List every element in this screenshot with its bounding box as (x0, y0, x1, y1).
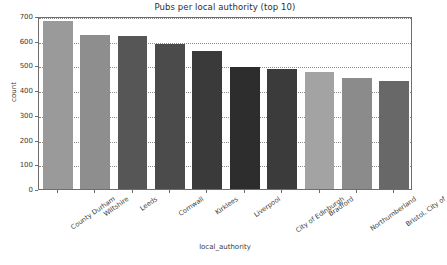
x-tick-label: Leeds (138, 195, 158, 213)
x-tick-label: Kirklees (214, 195, 240, 217)
x-axis: County DurhamWiltshireLeedsCornwallKirkl… (38, 190, 412, 242)
plot-area (38, 17, 412, 190)
x-tick-mark (356, 190, 357, 193)
bar[interactable] (155, 44, 185, 189)
x-tick-mark (206, 190, 207, 193)
bar[interactable] (43, 21, 73, 189)
bar[interactable] (118, 36, 148, 189)
x-tick-mark (132, 190, 133, 193)
x-tick-mark (319, 190, 320, 193)
x-tick-label: City of Edinburgh (294, 195, 345, 234)
x-axis-label: local_authority (38, 243, 412, 251)
bar[interactable] (80, 35, 110, 189)
chart-title: Pubs per local authority (top 10) (38, 2, 412, 12)
y-axis-label: count (10, 62, 18, 122)
x-tick-mark (281, 190, 282, 193)
y-tick-label: 500 (20, 62, 33, 70)
y-tick-label: 400 (20, 87, 33, 95)
bar[interactable] (342, 78, 372, 189)
y-tick-label: 300 (20, 112, 33, 120)
x-tick-mark (244, 190, 245, 193)
y-tick-label: 600 (20, 38, 33, 46)
x-tick-label: Liverpool (252, 195, 281, 219)
x-tick-mark (393, 190, 394, 193)
y-tick-label: 700 (20, 13, 33, 21)
y-axis: 0100200300400500600700 (0, 17, 38, 190)
y-tick-label: 100 (20, 161, 33, 169)
bar[interactable] (379, 81, 409, 189)
bar[interactable] (230, 67, 260, 189)
x-tick-mark (169, 190, 170, 193)
bar[interactable] (267, 69, 297, 189)
bar[interactable] (192, 51, 222, 189)
bar-series (39, 18, 411, 189)
y-tick-label: 200 (20, 137, 33, 145)
y-tick-label: 0 (29, 186, 33, 194)
x-tick-mark (57, 190, 58, 193)
x-tick-label: Cornwall (177, 195, 205, 218)
x-tick-mark (94, 190, 95, 193)
bar[interactable] (305, 72, 335, 189)
